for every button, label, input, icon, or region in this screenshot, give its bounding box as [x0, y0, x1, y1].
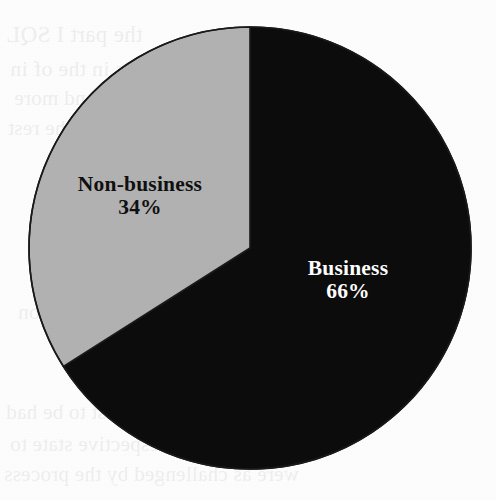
pie-chart-svg: Business 66% Non-business 34%: [0, 0, 496, 500]
scanned-page: the part I SQL his in the of in the and …: [0, 0, 496, 500]
pie-value-non-business: 34%: [118, 195, 162, 219]
pie-chart: Business 66% Non-business 34%: [0, 0, 496, 500]
pie-value-business: 66%: [326, 279, 370, 303]
pie-label-business: Business: [308, 256, 388, 280]
pie-label-non-business: Non-business: [78, 172, 202, 196]
